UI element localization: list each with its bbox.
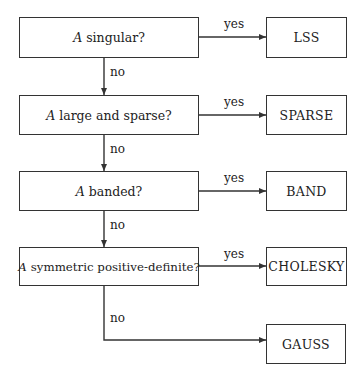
outcome-label: BAND [286, 184, 326, 199]
edge-label-no: no [110, 312, 125, 324]
decision-banded: A banded? [19, 171, 199, 211]
decision-text: large and sparse? [59, 108, 172, 123]
edge-label-no: no [110, 66, 125, 78]
matrix-variable: A [76, 184, 85, 199]
edge-label-yes: yes [224, 96, 244, 108]
edge-q4-no [104, 285, 266, 340]
outcome-label: LSS [293, 30, 319, 45]
matrix-variable: A [73, 30, 82, 45]
edge-label-yes: yes [224, 248, 244, 260]
outcome-band: BAND [266, 171, 347, 211]
outcome-label: CHOLESKY [268, 259, 344, 274]
outcome-cholesky: CHOLESKY [266, 247, 347, 286]
outcome-gauss: GAUSS [266, 324, 346, 364]
decision-text: symmetric positive-definite? [31, 260, 200, 274]
edge-label-yes: yes [224, 172, 244, 184]
outcome-label: GAUSS [282, 337, 330, 352]
edge-label-yes: yes [224, 18, 244, 30]
edge-label-no: no [110, 143, 125, 155]
outcome-label: SPARSE [280, 108, 334, 123]
decision-singular: A singular? [19, 17, 199, 58]
decision-text: singular? [86, 30, 145, 45]
outcome-sparse: SPARSE [266, 95, 347, 135]
decision-symmetric-positive-definite: A symmetric positive-definite? [19, 247, 199, 286]
decision-text: banded? [89, 184, 143, 199]
matrix-variable: A [18, 260, 27, 274]
outcome-lss: LSS [266, 17, 347, 58]
decision-large-sparse: A large and sparse? [19, 95, 199, 135]
matrix-variable: A [46, 108, 55, 123]
edge-label-no: no [110, 219, 125, 231]
